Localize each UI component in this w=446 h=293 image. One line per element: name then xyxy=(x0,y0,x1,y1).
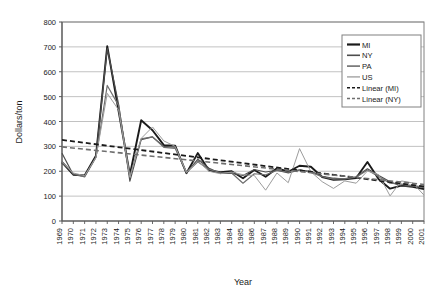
x-tick-label: 1978 xyxy=(157,228,166,245)
x-tick-label: 1970 xyxy=(66,228,75,245)
x-tick-label: 1992 xyxy=(315,228,324,245)
chart-legend: MINYPAUSLinear (MI)Linear (NY) xyxy=(342,35,421,107)
x-tick-label: 1984 xyxy=(225,228,234,245)
y-tick-label: 600 xyxy=(43,68,56,77)
series-line-us xyxy=(62,93,424,195)
x-tick-label: 1989 xyxy=(281,228,290,245)
x-tick-label: 1999 xyxy=(394,228,403,245)
x-tick-label: 1973 xyxy=(100,228,109,245)
y-axis-title: Dollars/ton xyxy=(14,100,24,143)
x-tick-label: 1991 xyxy=(304,228,313,245)
y-tick-label: 800 xyxy=(43,18,56,27)
legend-label-pa: PA xyxy=(362,62,373,71)
x-tick-label: 1986 xyxy=(247,228,256,245)
x-tick-label: 2001 xyxy=(417,228,426,245)
x-tick-label: 1981 xyxy=(191,228,200,245)
x-tick-label: 1988 xyxy=(270,228,279,245)
trendline-linearmi xyxy=(62,140,424,187)
y-tick-label: 500 xyxy=(43,93,56,102)
x-tick-label: 1980 xyxy=(179,228,188,245)
x-tick-label: 1974 xyxy=(112,228,121,245)
x-tick-label: 1985 xyxy=(236,228,245,245)
x-axis-title: Year xyxy=(234,277,252,287)
x-tick-label: 1976 xyxy=(134,228,143,245)
x-tick-label: 1987 xyxy=(259,228,268,245)
x-tick-label: 1972 xyxy=(89,228,98,245)
trendlines xyxy=(62,140,424,187)
x-tick-label: 1998 xyxy=(383,228,392,245)
x-tick-label: 2000 xyxy=(406,228,415,245)
x-tick-label: 1993 xyxy=(327,228,336,245)
y-tick-label: 300 xyxy=(43,142,56,151)
x-tick-label: 1979 xyxy=(168,228,177,245)
x-tick-label: 1994 xyxy=(338,228,347,245)
x-tick-label: 1971 xyxy=(78,228,87,245)
y-tick-label: 0 xyxy=(52,217,56,226)
y-tick-label: 700 xyxy=(43,43,56,52)
x-tick-label: 1996 xyxy=(360,228,369,245)
legend-label-ny: NY xyxy=(362,51,373,60)
legend-label-us: US xyxy=(362,73,373,82)
x-tick-label: 1982 xyxy=(202,228,211,245)
x-tick-label: 1995 xyxy=(349,228,358,245)
x-tick-label: 1977 xyxy=(146,228,155,245)
legend-label-linearmi: Linear (MI) xyxy=(362,84,399,93)
x-tick-label: 1990 xyxy=(293,228,302,245)
x-tick-label: 1975 xyxy=(123,228,132,245)
y-axis-tick-labels: 0100200300400500600700800 xyxy=(43,18,62,226)
chart-container: 0100200300400500600700800 19691970197119… xyxy=(0,0,446,293)
x-tick-label: 1983 xyxy=(213,228,222,245)
y-tick-label: 200 xyxy=(43,167,56,176)
y-tick-label: 400 xyxy=(43,118,56,127)
x-axis-tick-labels: 1969197019711972197319741975197619771978… xyxy=(55,228,426,245)
x-tick-label: 1969 xyxy=(55,228,64,245)
legend-label-linearny: Linear (NY) xyxy=(362,95,401,104)
legend-label-mi: MI xyxy=(362,41,370,50)
x-tick-label: 1997 xyxy=(372,228,381,245)
line-chart: 0100200300400500600700800 19691970197119… xyxy=(0,0,446,293)
y-tick-label: 100 xyxy=(43,192,56,201)
